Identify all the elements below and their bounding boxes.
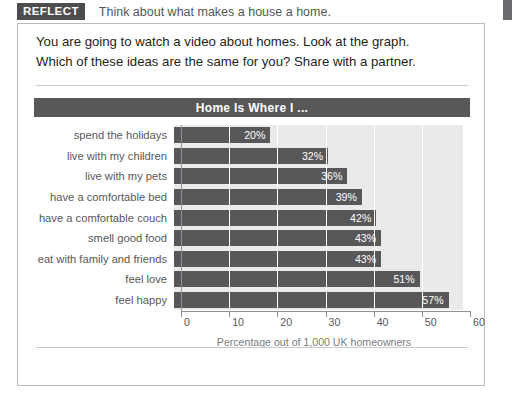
bar-category-label: have a comfortable bed — [34, 191, 174, 203]
bar-row: feel happy57% — [34, 290, 470, 311]
bar-track: 32% — [174, 146, 463, 167]
bar-row: have a comfortable couch42% — [34, 207, 470, 228]
x-axis: 0102030405060 — [181, 311, 471, 333]
bar: 43% — [174, 251, 381, 267]
bar-row: have a comfortable bed39% — [34, 187, 470, 208]
bar: 20% — [174, 127, 270, 143]
bar-rows: spend the holidays20%live with my childr… — [34, 125, 470, 310]
bar-category-label: spend the holidays — [34, 129, 174, 141]
x-axis-tick-label: 10 — [229, 316, 244, 328]
bar-track: 51% — [174, 269, 463, 290]
bar-chart: Home Is Where I ... spend the holidays20… — [34, 98, 470, 338]
bar-value-label: 32% — [302, 150, 328, 162]
bar-row: feel love51% — [34, 269, 470, 290]
bar-category-label: smell good food — [34, 232, 174, 244]
bar-track: 20% — [174, 125, 463, 146]
x-axis-tick-label: 0 — [181, 316, 190, 328]
bar-track: 43% — [174, 228, 463, 249]
plot-area: spend the holidays20%live with my childr… — [34, 125, 470, 311]
bar: 32% — [174, 148, 328, 164]
bar: 57% — [174, 292, 449, 308]
bar: 43% — [174, 230, 381, 246]
gridline — [470, 125, 471, 311]
intro-line-2: Which of these ideas are the same for yo… — [36, 52, 466, 72]
bar-track: 57% — [174, 290, 463, 311]
x-axis-tick-label: 30 — [326, 316, 341, 328]
bar: 36% — [174, 168, 347, 184]
chart-title: Home Is Where I ... — [34, 98, 470, 117]
divider-bottom — [36, 347, 468, 348]
divider-top — [36, 85, 468, 86]
x-axis-tick-label: 40 — [374, 316, 389, 328]
bar: 51% — [174, 271, 420, 287]
bar-value-label: 51% — [393, 273, 419, 285]
bar: 39% — [174, 189, 362, 205]
bar-category-label: live with my children — [34, 150, 174, 162]
bar-row: live with my pets36% — [34, 166, 470, 187]
reflect-tag: REFLECT — [17, 3, 85, 20]
bar-value-label: 36% — [321, 170, 347, 182]
bar-track: 42% — [174, 207, 463, 228]
bar-track: 39% — [174, 187, 463, 208]
x-axis-tick-label: 60 — [470, 316, 485, 328]
bar-category-label: live with my pets — [34, 170, 174, 182]
x-axis-tick-label: 50 — [422, 316, 437, 328]
bar: 42% — [174, 210, 376, 226]
bar-value-label: 42% — [350, 212, 376, 224]
intro-text: You are going to watch a video about hom… — [36, 32, 466, 72]
x-axis-tick-label: 20 — [277, 316, 292, 328]
page-edge-tab-icon — [503, 0, 512, 20]
bar-value-label: 43% — [355, 232, 381, 244]
reflect-header: REFLECT Think about what makes a house a… — [17, 2, 487, 21]
bar-category-label: feel happy — [34, 294, 174, 306]
activity-panel: You are going to watch a video about hom… — [17, 23, 485, 386]
reflect-prompt: Think about what makes a house a home. — [99, 5, 331, 19]
bar-row: live with my children32% — [34, 146, 470, 167]
bar-row: smell good food43% — [34, 228, 470, 249]
bar-category-label: have a comfortable couch — [34, 212, 174, 224]
bar-row: spend the holidays20% — [34, 125, 470, 146]
bar-value-label: 57% — [422, 294, 448, 306]
bar-row: eat with family and friends43% — [34, 249, 470, 270]
bar-track: 36% — [174, 166, 463, 187]
bar-value-label: 20% — [244, 129, 270, 141]
bar-value-label: 43% — [355, 253, 381, 265]
bar-track: 43% — [174, 249, 463, 270]
bar-value-label: 39% — [336, 191, 362, 203]
intro-line-1: You are going to watch a video about hom… — [36, 32, 466, 52]
bar-category-label: feel love — [34, 273, 174, 285]
bar-category-label: eat with family and friends — [34, 253, 174, 265]
